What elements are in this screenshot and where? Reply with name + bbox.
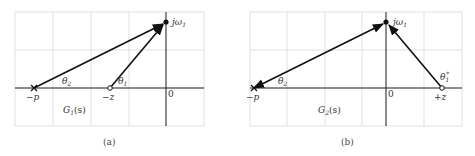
transfer-label-a: G1(s): [63, 105, 86, 116]
pole-vector-b: [254, 24, 383, 88]
zero-circle-icon: [440, 86, 445, 91]
pole-zero-diagram: jω1 θ2 θ1 −p −z 0 G1(s) (a) jω1 θ2 θ1*: [0, 0, 475, 156]
zero-label-b: +z: [434, 92, 447, 102]
origin-label-b: 0: [388, 89, 394, 99]
angle-pole-label-b: θ2: [278, 76, 287, 87]
caption-a: (a): [103, 137, 115, 147]
caption-b: (b): [341, 137, 354, 147]
test-point-dot-icon: [163, 19, 168, 24]
grid-a: [15, 12, 204, 126]
panel-a: jω1 θ2 θ1 −p −z 0 G1(s) (a): [15, 12, 204, 147]
angle-zero-label-b: θ1*: [440, 70, 449, 83]
transfer-label-b: G2(s): [318, 105, 341, 116]
pole-label-b: −p: [246, 92, 260, 102]
origin-label-a: 0: [168, 89, 174, 99]
test-point-dot-icon: [383, 19, 388, 24]
zero-label-a: −z: [102, 92, 115, 102]
pole-label-a: −p: [26, 92, 40, 102]
zero-vector-b: [389, 25, 442, 88]
point-label-b: jω1: [391, 17, 407, 28]
angle-zero-label-a: θ1: [118, 76, 127, 87]
zero-circle-icon: [108, 86, 113, 91]
point-label-a: jω1: [170, 17, 186, 28]
angle-pole-label-a: θ2: [62, 76, 71, 87]
panel-b: jω1 θ2 θ1* −p +z 0 G2(s) (b): [246, 12, 462, 147]
grid-b: [250, 12, 462, 126]
